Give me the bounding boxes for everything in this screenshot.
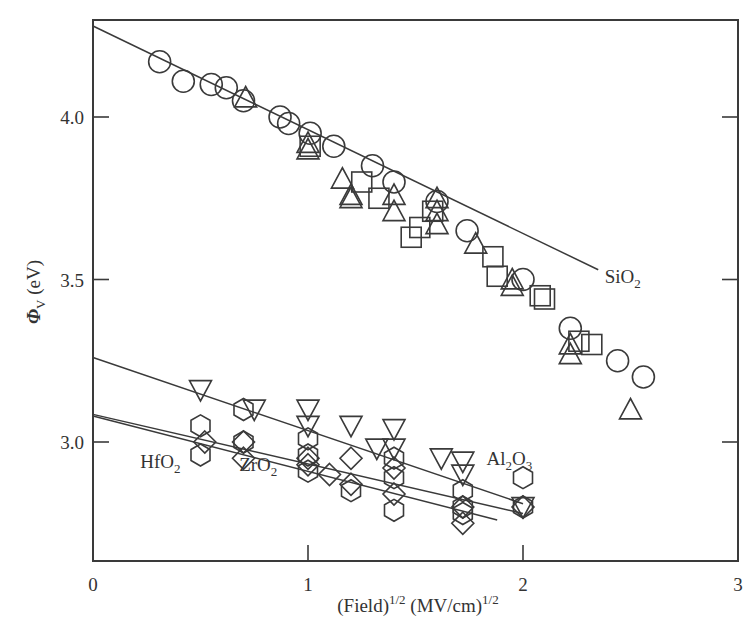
x-tick-label: 0 [88,574,98,595]
triangle-up-marker [620,399,642,419]
annotation-hfo2: HfO2 [140,451,180,476]
hexagon-marker [385,499,404,521]
circle-marker [233,90,255,112]
x-tick-label: 1 [303,574,313,595]
triangle-down-marker [452,465,474,485]
fit-line-sio2 [93,26,598,270]
circle-marker [632,366,654,388]
diamond-marker [452,512,474,534]
axis-ticks: 01233.03.54.0 [60,107,743,595]
x-tick-label: 2 [518,574,528,595]
diamond-marker [340,447,362,469]
chart: 01233.03.54.0 SiO2Al2O3HfO2ZrO2 (Field)1… [0,0,755,627]
triangle-up-marker [383,200,405,220]
y-axis-title: ΦV (eV) [23,260,48,324]
fit-lines [93,26,598,520]
x-tick-label: 3 [733,574,743,595]
circle-marker [456,220,478,242]
x-axis-title: (Field)1/2 (MV/cm)1/2 [337,592,498,617]
triangle-down-marker [383,420,405,440]
plot-frame [93,20,738,561]
triangle-down-marker [297,400,319,420]
circle-marker [607,350,629,372]
circle-marker [172,70,194,92]
y-tick-label: 4.0 [60,107,84,128]
circle-marker [200,74,222,96]
plot-border [93,20,738,561]
annotation-al2o3: Al2O3 [486,448,532,473]
square-marker [483,247,503,267]
annotation-sio2: SiO2 [605,266,641,291]
annotation-zro2: ZrO2 [239,454,277,479]
triangle-down-marker [430,449,452,469]
triangle-down-marker [452,452,474,472]
hexagon-marker [191,444,210,466]
circle-marker [559,317,581,339]
diamond-marker [512,496,534,518]
circle-marker [383,171,405,193]
y-tick-label: 3.0 [60,432,84,453]
triangle-down-marker [340,416,362,436]
y-tick-label: 3.5 [60,270,84,291]
